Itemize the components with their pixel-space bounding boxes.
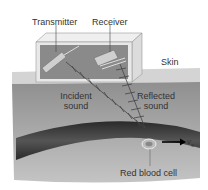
incident-sound-label: Incident sound	[56, 91, 96, 111]
receiver-label: Receiver	[92, 17, 128, 27]
reflected-sound-label: Reflected sound	[134, 91, 178, 111]
skin-label: Skin	[161, 57, 179, 67]
transducer-box	[36, 25, 142, 82]
velocity-label: vs	[187, 137, 194, 150]
red-blood-cell-label: Red blood cell	[120, 168, 177, 178]
transmitter-label: Transmitter	[32, 17, 77, 27]
